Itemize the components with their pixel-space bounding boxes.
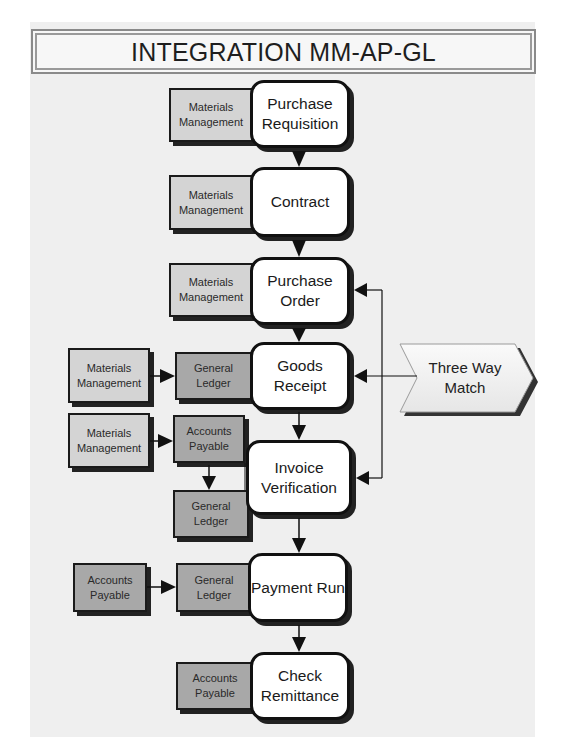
- side-note-line: Three Way: [410, 358, 520, 378]
- module-label: General: [194, 573, 233, 588]
- module-general-ledger: General Ledger: [175, 352, 252, 400]
- step-label: Check: [278, 666, 322, 686]
- diagram-title: INTEGRATION MM-AP-GL: [33, 38, 534, 67]
- step-label: Requisition: [262, 114, 339, 134]
- module-label: Materials: [189, 100, 234, 115]
- module-label: Accounts: [186, 424, 231, 439]
- step-label: Contract: [271, 192, 330, 212]
- module-label: Management: [77, 376, 141, 391]
- module-label: Ledger: [197, 588, 231, 603]
- step-goods-receipt: Goods Receipt: [250, 342, 350, 410]
- module-general-ledger: General Ledger: [176, 563, 252, 612]
- module-accounts-payable: Accounts Payable: [73, 563, 147, 612]
- module-label: Ledger: [194, 514, 228, 529]
- step-label: Goods: [277, 356, 323, 376]
- module-materials-management: Materials Management: [169, 263, 253, 317]
- step-invoice-verification: Invoice Verification: [246, 440, 352, 515]
- step-contract: Contract: [250, 167, 350, 237]
- module-label: Payable: [90, 588, 130, 603]
- step-check-remittance: Check Remittance: [250, 652, 350, 720]
- three-way-match-label: Three Way Match: [410, 358, 520, 398]
- module-label: Ledger: [196, 376, 230, 391]
- module-label: General: [191, 499, 230, 514]
- module-label: Management: [179, 203, 243, 218]
- module-label: Materials: [189, 188, 234, 203]
- module-materials-management: Materials Management: [169, 88, 253, 142]
- module-label: Materials: [189, 275, 234, 290]
- module-label: Payable: [189, 439, 229, 454]
- module-label: Payable: [195, 686, 235, 701]
- module-accounts-payable: Accounts Payable: [176, 662, 254, 710]
- module-accounts-payable: Accounts Payable: [173, 415, 245, 463]
- module-label: Accounts: [192, 671, 237, 686]
- module-materials-management: Materials Management: [169, 175, 253, 230]
- module-label: Accounts: [87, 573, 132, 588]
- side-note-line: Match: [410, 378, 520, 398]
- step-label: Purchase: [267, 94, 332, 114]
- step-purchase-order: Purchase Order: [250, 257, 350, 325]
- step-label: Invoice: [274, 458, 323, 478]
- step-label: Order: [280, 291, 320, 311]
- module-label: Materials: [87, 361, 132, 376]
- step-purchase-requisition: Purchase Requisition: [250, 80, 350, 148]
- title-banner: INTEGRATION MM-AP-GL: [31, 29, 536, 74]
- step-label: Receipt: [274, 376, 327, 396]
- step-label: Verification: [261, 478, 337, 498]
- step-label: Purchase: [267, 271, 332, 291]
- module-materials-management: Materials Management: [68, 413, 150, 468]
- module-general-ledger: General Ledger: [173, 490, 249, 538]
- module-label: Management: [179, 115, 243, 130]
- step-label: Payment Run: [251, 578, 345, 598]
- module-label: Management: [179, 290, 243, 305]
- module-label: General: [194, 361, 233, 376]
- step-label: Remittance: [261, 686, 339, 706]
- module-materials-management: Materials Management: [68, 348, 150, 403]
- module-label: Management: [77, 441, 141, 456]
- step-payment-run: Payment Run: [248, 553, 348, 622]
- module-label: Materials: [87, 426, 132, 441]
